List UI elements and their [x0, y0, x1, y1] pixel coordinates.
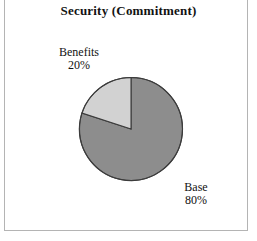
- pie-label-benefits-value: 20%: [38, 59, 120, 72]
- pie-label-base-value: 80%: [158, 194, 234, 207]
- pie-label-benefits: Benefits 20%: [38, 46, 120, 72]
- pie-label-base: Base 80%: [158, 181, 234, 207]
- pie-chart-figure: Security (Commitment) Benefits 20% Base …: [0, 0, 257, 241]
